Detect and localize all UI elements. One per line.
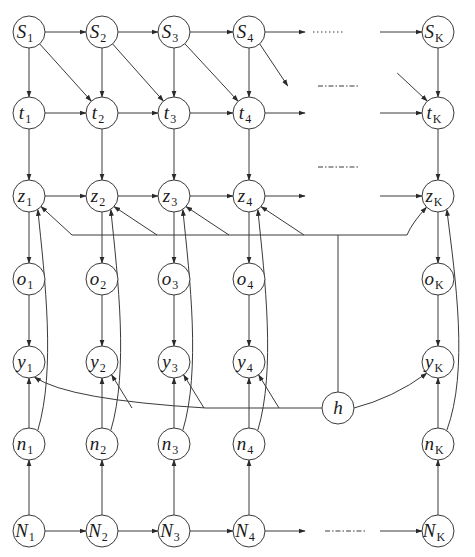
edge-n1-z1 bbox=[38, 210, 48, 431]
node-t-2: t2 bbox=[86, 97, 118, 129]
edge-gap-tK-diagonal bbox=[397, 73, 427, 101]
node-y-3: y3 bbox=[158, 346, 190, 378]
edge-S2-t3 bbox=[113, 44, 164, 101]
node-n-K: nK bbox=[422, 428, 454, 460]
edge-h-y3 bbox=[184, 375, 204, 408]
node-S-K: SK bbox=[422, 16, 454, 48]
edge-h-z1 bbox=[41, 207, 72, 235]
node-N-2: N2 bbox=[86, 515, 118, 547]
node-h: h bbox=[322, 392, 354, 424]
edge-S1-t2 bbox=[40, 44, 92, 101]
node-y-2: y2 bbox=[86, 346, 118, 378]
node-N-3: N3 bbox=[158, 515, 190, 547]
edge-n4-z4 bbox=[258, 210, 268, 431]
node-S-4: S4 bbox=[233, 16, 265, 48]
node-n-3: n3 bbox=[158, 428, 190, 460]
node-o-K: oK bbox=[422, 263, 454, 295]
edge-h-y1 bbox=[35, 377, 322, 408]
node-t-1: t1 bbox=[13, 97, 45, 129]
node-N-K: NK bbox=[422, 515, 454, 547]
ellipsis-layer bbox=[313, 32, 366, 531]
edge-n2-z2 bbox=[111, 210, 121, 431]
node-t-K: tK bbox=[422, 97, 454, 129]
edge-h-y2 bbox=[112, 375, 132, 408]
edge-h-y4 bbox=[259, 375, 279, 408]
edge-h-yK bbox=[354, 373, 427, 408]
edge-h-z2 bbox=[114, 207, 157, 235]
node-o-3: o3 bbox=[158, 263, 190, 295]
node-label: h bbox=[333, 397, 343, 418]
node-z-2: z2 bbox=[86, 180, 118, 212]
node-o-4: o4 bbox=[233, 263, 265, 295]
node-n-1: n1 bbox=[13, 428, 45, 460]
node-n-4: n4 bbox=[233, 428, 265, 460]
node-y-4: y4 bbox=[233, 346, 265, 378]
node-o-1: o1 bbox=[13, 263, 45, 295]
edge-n3-z3 bbox=[183, 210, 193, 431]
node-N-4: N4 bbox=[233, 515, 265, 547]
edge-S4-gap-diagonal bbox=[260, 44, 288, 86]
node-S-3: S3 bbox=[158, 16, 190, 48]
node-z-K: zK bbox=[422, 180, 454, 212]
graphical-model-diagram: S1S2S3S4SKt1t2t3t4tKz1z2z3z4zKo1o2o3o4oK… bbox=[0, 0, 475, 557]
node-z-1: z1 bbox=[13, 180, 45, 212]
edge-h-zK bbox=[407, 207, 426, 235]
edge-h-z3 bbox=[186, 207, 229, 235]
node-z-3: z3 bbox=[158, 180, 190, 212]
node-S-1: S1 bbox=[13, 16, 45, 48]
node-y-K: yK bbox=[422, 346, 454, 378]
edge-S3-t4 bbox=[185, 44, 238, 102]
edge-nK-zK bbox=[447, 210, 459, 431]
node-t-4: t4 bbox=[233, 97, 265, 129]
node-N-1: N1 bbox=[13, 515, 45, 547]
node-n-2: n2 bbox=[86, 428, 118, 460]
edge-h-z4 bbox=[261, 207, 304, 235]
node-z-4: z4 bbox=[233, 180, 265, 212]
node-t-3: t3 bbox=[158, 97, 190, 129]
node-o-2: o2 bbox=[86, 263, 118, 295]
node-y-1: y1 bbox=[13, 346, 45, 378]
node-S-2: S2 bbox=[86, 16, 118, 48]
